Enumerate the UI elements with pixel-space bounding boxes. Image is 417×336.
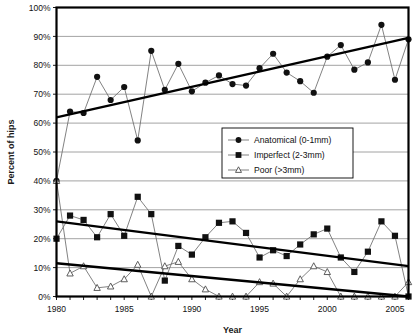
x-tick-label: 1980 bbox=[47, 304, 66, 314]
data-point bbox=[284, 69, 290, 75]
data-point bbox=[162, 278, 168, 284]
data-point bbox=[121, 84, 127, 90]
y-tick-label: 100% bbox=[29, 3, 51, 13]
legend-marker-circle-icon bbox=[236, 137, 242, 143]
data-point bbox=[297, 78, 303, 84]
y-tick-label: 80% bbox=[33, 60, 50, 70]
data-point bbox=[392, 233, 398, 239]
data-point bbox=[378, 22, 384, 28]
y-tick-label: 20% bbox=[33, 234, 50, 244]
legend: Anatomical (0-1mm)Imperfect (2-3mm)Poor … bbox=[222, 128, 353, 178]
data-point bbox=[365, 59, 371, 65]
data-point bbox=[243, 230, 249, 236]
legend-label-2: Imperfect (2-3mm) bbox=[254, 150, 325, 160]
data-point bbox=[229, 81, 235, 87]
data-point bbox=[135, 194, 141, 200]
y-axis: 0%10%20%30%40%50%60%70%80%90%100% bbox=[29, 3, 57, 302]
data-point bbox=[243, 82, 249, 88]
data-point bbox=[311, 231, 317, 237]
data-point bbox=[175, 61, 181, 67]
data-point bbox=[108, 97, 114, 103]
y-axis-title: Percent of hips bbox=[6, 119, 16, 184]
y-tick-label: 60% bbox=[33, 118, 50, 128]
data-point bbox=[378, 218, 384, 224]
data-point bbox=[284, 253, 290, 259]
data-point bbox=[256, 254, 262, 260]
x-tick-label: 2005 bbox=[386, 304, 405, 314]
data-point bbox=[324, 225, 330, 231]
data-point bbox=[67, 212, 73, 218]
data-point bbox=[351, 67, 357, 73]
y-tick-label: 0% bbox=[38, 292, 51, 302]
chart-svg: 0%10%20%30%40%50%60%70%80%90%100%1980198… bbox=[0, 0, 417, 336]
data-point bbox=[135, 137, 141, 143]
data-point bbox=[175, 243, 181, 249]
data-point bbox=[121, 233, 127, 239]
y-tick-label: 40% bbox=[33, 176, 50, 186]
data-point bbox=[392, 77, 398, 83]
y-tick-label: 50% bbox=[33, 147, 50, 157]
y-tick-label: 90% bbox=[33, 32, 50, 42]
data-point bbox=[216, 220, 222, 226]
legend-marker-square-icon bbox=[236, 152, 242, 158]
data-point bbox=[338, 42, 344, 48]
x-tick-label: 2000 bbox=[318, 304, 337, 314]
x-tick-label: 1985 bbox=[115, 304, 134, 314]
data-point bbox=[148, 211, 154, 217]
data-point bbox=[189, 251, 195, 257]
data-point bbox=[148, 48, 154, 54]
data-point bbox=[108, 211, 114, 217]
data-point bbox=[365, 249, 371, 255]
y-tick-label: 70% bbox=[33, 89, 50, 99]
y-tick-label: 10% bbox=[33, 263, 50, 273]
x-tick-label: 1995 bbox=[250, 304, 269, 314]
chart-figure: 0%10%20%30%40%50%60%70%80%90%100%1980198… bbox=[0, 0, 417, 336]
data-point bbox=[311, 90, 317, 96]
x-axis-title: Year bbox=[223, 325, 243, 335]
data-point bbox=[270, 51, 276, 57]
data-point bbox=[189, 88, 195, 94]
legend-label-1: Anatomical (0-1mm) bbox=[254, 135, 331, 145]
legend-label-3: Poor (>3mm) bbox=[254, 165, 305, 175]
data-point bbox=[94, 74, 100, 80]
data-point bbox=[297, 241, 303, 247]
x-tick-label: 1990 bbox=[182, 304, 201, 314]
data-point bbox=[94, 234, 100, 240]
data-point bbox=[80, 217, 86, 223]
data-point bbox=[229, 218, 235, 224]
data-point bbox=[351, 269, 357, 275]
data-point bbox=[216, 72, 222, 78]
y-tick-label: 30% bbox=[33, 205, 50, 215]
